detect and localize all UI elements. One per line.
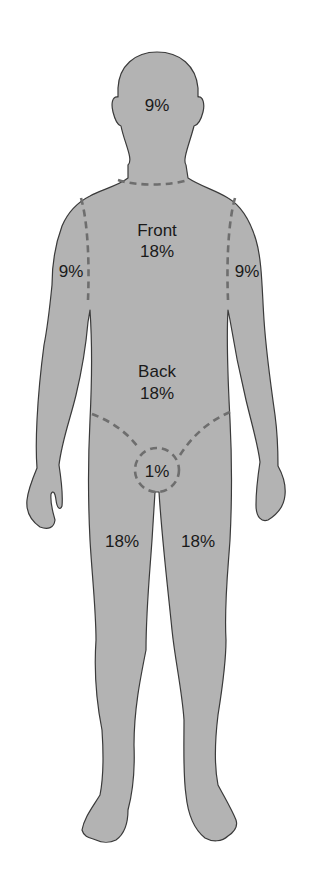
trunk-back-name: Back	[117, 362, 197, 382]
left-arm-label: 9%	[51, 262, 91, 282]
left-leg-label: 18%	[97, 532, 147, 552]
body-diagram	[0, 0, 315, 882]
perineum-label: 1%	[137, 462, 177, 482]
trunk-front-label: 18%	[117, 242, 197, 262]
right-arm-label: 9%	[227, 262, 267, 282]
trunk-front-name: Front	[117, 221, 197, 241]
head-label: 9%	[137, 96, 177, 116]
right-leg-label: 18%	[173, 532, 223, 552]
trunk-back-label: 18%	[117, 384, 197, 404]
